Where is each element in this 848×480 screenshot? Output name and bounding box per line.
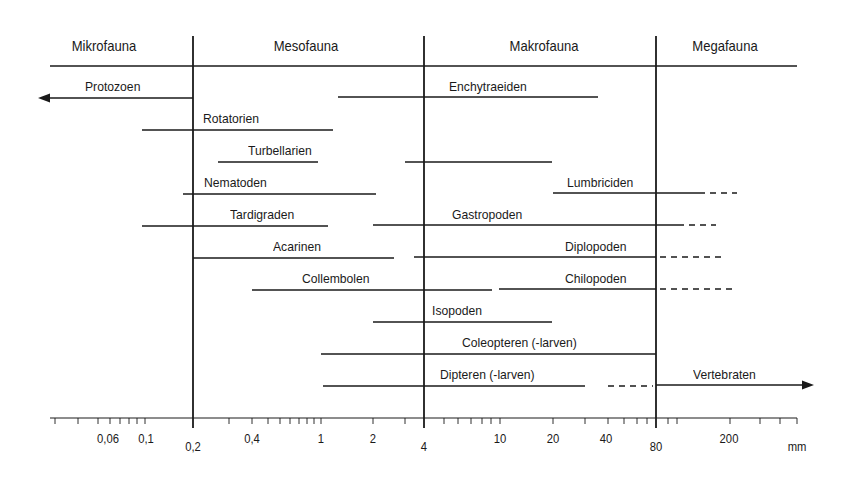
arrow-right-icon — [802, 381, 814, 390]
taxon-label-collembolen: Collembolen — [302, 271, 370, 287]
taxon-label-acarinen: Acarinen — [273, 239, 321, 255]
diagram-lines — [0, 0, 848, 480]
taxon-label-isopoden: Isopoden — [432, 303, 482, 319]
arrow-left-icon — [38, 94, 50, 103]
taxon-label-tardigraden: Tardigraden — [230, 207, 294, 223]
tick-label-4: 4 — [421, 440, 427, 454]
soil-fauna-size-diagram: Mikrofauna Mesofauna Makrofauna Megafaun… — [0, 0, 848, 480]
tick-label-20: 20 — [547, 432, 560, 446]
tick-label-10: 10 — [494, 432, 507, 446]
taxon-label-protozoen: Protozoen — [85, 79, 140, 95]
taxon-label-nematoden: Nematoden — [204, 175, 267, 191]
axis-unit-label: mm — [788, 440, 807, 454]
size-class-dividers — [193, 36, 656, 428]
taxon-label-turbellarien: Turbellarien — [248, 143, 312, 159]
header-mesofauna: Mesofauna — [261, 37, 351, 55]
header-megafauna: Megafauna — [680, 37, 770, 55]
tick-label-0-2: 0,2 — [185, 440, 201, 454]
taxon-label-gastropoden: Gastropoden — [452, 207, 522, 223]
header-makrofauna: Makrofauna — [499, 37, 589, 55]
taxon-label-vertebraten: Vertebraten — [693, 367, 756, 383]
taxon-ranges — [38, 94, 814, 390]
tick-label-0-4: 0,4 — [244, 432, 260, 446]
tick-label-0-1: 0,1 — [138, 432, 154, 446]
tick-label-40: 40 — [600, 432, 613, 446]
taxon-label-enchytraeiden: Enchytraeiden — [449, 79, 527, 95]
tick-label-1: 1 — [318, 432, 324, 446]
taxon-label-coleopteren-larven: Coleopteren (-larven) — [462, 335, 577, 351]
tick-label-0-06: 0,06 — [97, 432, 119, 446]
tick-label-200: 200 — [720, 432, 739, 446]
taxon-label-chilopoden: Chilopoden — [565, 271, 626, 287]
taxon-label-dipteren-larven: Dipteren (-larven) — [440, 367, 535, 383]
taxon-label-rotatorien: Rotatorien — [203, 111, 259, 127]
tick-label-80: 80 — [650, 440, 663, 454]
taxon-label-lumbriciden: Lumbriciden — [567, 175, 633, 191]
header-mikrofauna: Mikrofauna — [59, 37, 149, 55]
taxon-label-diplopoden: Diplopoden — [565, 239, 626, 255]
tick-label-2: 2 — [370, 432, 376, 446]
